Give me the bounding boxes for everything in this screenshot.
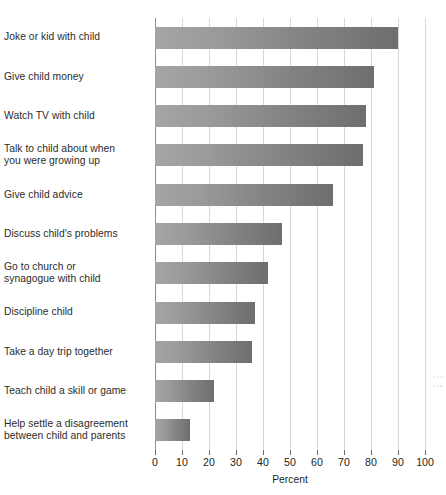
category-label: Take a day trip together bbox=[4, 346, 144, 358]
x-tick-100 bbox=[425, 450, 426, 455]
x-tick-label: 40 bbox=[257, 456, 269, 469]
x-tick-90 bbox=[398, 450, 399, 455]
x-tick-80 bbox=[371, 450, 372, 455]
x-tick-20 bbox=[209, 450, 210, 455]
x-tick-label: 70 bbox=[338, 456, 350, 469]
x-tick-label: 80 bbox=[365, 456, 377, 469]
x-tick-label: 0 bbox=[152, 456, 158, 469]
x-axis-title: Percent bbox=[155, 474, 425, 485]
plot-area bbox=[155, 18, 425, 450]
x-tick-label: 10 bbox=[176, 456, 188, 469]
scan-bleed-artifact: e s e i c s p bbox=[433, 372, 445, 490]
bar bbox=[155, 380, 214, 402]
x-tick-label: 60 bbox=[311, 456, 323, 469]
x-tick-0 bbox=[155, 450, 156, 455]
gridline-100 bbox=[425, 18, 426, 450]
gridline-90 bbox=[398, 18, 399, 450]
x-tick-60 bbox=[317, 450, 318, 455]
bar bbox=[155, 184, 333, 206]
category-label: Talk to child about when you were growin… bbox=[4, 143, 144, 168]
x-tick-70 bbox=[344, 450, 345, 455]
x-tick-label: 50 bbox=[284, 456, 296, 469]
bar bbox=[155, 223, 282, 245]
bar bbox=[155, 27, 398, 49]
x-axis-tick-labels: 0102030405060708090100 bbox=[155, 456, 445, 472]
category-labels: Joke or kid with childGive child moneyWa… bbox=[0, 18, 150, 450]
x-tick-label: 30 bbox=[230, 456, 242, 469]
category-label: Joke or kid with child bbox=[4, 31, 144, 43]
x-tick-10 bbox=[182, 450, 183, 455]
bar bbox=[155, 262, 268, 284]
category-label: Help settle a disagreement between child… bbox=[4, 418, 144, 443]
bar bbox=[155, 341, 252, 363]
category-label: Give child advice bbox=[4, 189, 144, 201]
category-label: Discipline child bbox=[4, 306, 144, 318]
x-tick-label: 20 bbox=[203, 456, 215, 469]
bar bbox=[155, 144, 363, 166]
x-tick-30 bbox=[236, 450, 237, 455]
x-tick-label: 100 bbox=[416, 456, 434, 469]
bar bbox=[155, 105, 366, 127]
x-tick-40 bbox=[263, 450, 264, 455]
category-label: Discuss child's problems bbox=[4, 228, 144, 240]
bar bbox=[155, 302, 255, 324]
x-tick-50 bbox=[290, 450, 291, 455]
category-label: Teach child a skill or game bbox=[4, 385, 144, 397]
bar-chart-figure: Joke or kid with childGive child moneyWa… bbox=[0, 0, 446, 495]
category-label: Give child money bbox=[4, 71, 144, 83]
bar bbox=[155, 66, 374, 88]
category-label: Watch TV with child bbox=[4, 110, 144, 122]
bar bbox=[155, 419, 190, 441]
category-label: Go to church or synagogue with child bbox=[4, 261, 144, 286]
x-tick-label: 90 bbox=[392, 456, 404, 469]
